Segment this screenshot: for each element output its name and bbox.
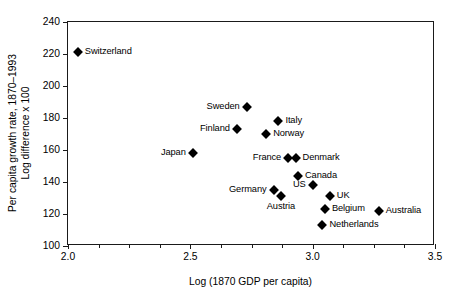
x-axis-tick	[313, 244, 314, 249]
data-point-label: Austria	[267, 202, 295, 211]
data-point-label: Italy	[285, 117, 302, 126]
plot-frame: 1001201401601802002202402.02.53.03.5 Swi…	[67, 21, 434, 245]
data-point-label: Netherlands	[329, 221, 378, 230]
x-axis-minor-tick	[282, 244, 283, 248]
data-point-marker	[242, 102, 252, 112]
data-point-label: UK	[337, 192, 350, 201]
x-axis-minor-tick	[129, 244, 130, 248]
y-axis-title: Per capita growth rate, 1870–1993 Log di…	[8, 21, 32, 245]
data-point-marker	[261, 129, 271, 139]
data-point-label: Switzerland	[85, 48, 132, 57]
data-point-marker	[318, 220, 328, 230]
x-axis-minor-tick	[404, 244, 405, 248]
data-point-marker	[273, 116, 283, 126]
data-point-marker	[276, 191, 286, 201]
y-axis-tick-label: 200	[43, 81, 60, 91]
data-point-label: Finland	[200, 125, 230, 134]
data-point-label: Norway	[273, 129, 304, 138]
x-axis-tick-label: 2.5	[183, 252, 197, 262]
y-axis-tick-label: 160	[43, 145, 60, 155]
data-point-marker	[325, 191, 335, 201]
data-point-label: Sweden	[207, 102, 240, 111]
x-axis-title: Log (1870 GDP per capita)	[67, 276, 434, 287]
y-axis-tick-label: 240	[43, 17, 60, 27]
x-axis-tick	[435, 244, 436, 249]
data-point-marker	[291, 153, 301, 163]
data-point-label: Germany	[229, 185, 267, 194]
data-points-layer: SwitzerlandJapanSwedenFinlandItalyNorway…	[68, 22, 433, 244]
data-point-label: US	[293, 181, 306, 190]
y-axis-tick-label: 220	[43, 49, 60, 59]
x-axis-minor-tick	[252, 244, 253, 248]
data-point-marker	[73, 47, 83, 57]
data-point-marker	[320, 204, 330, 214]
data-point-marker	[232, 124, 242, 134]
y-axis-tick-label: 120	[43, 209, 60, 219]
x-axis-minor-tick	[343, 244, 344, 248]
data-point-label: Denmark	[303, 153, 340, 162]
data-point-label: France	[253, 153, 281, 162]
y-axis-tick-label: 140	[43, 177, 60, 187]
y-axis-tick-label: 100	[43, 241, 60, 251]
x-axis-tick-label: 3.5	[428, 252, 442, 262]
y-axis-title-line2: Log difference x 100	[20, 86, 31, 179]
x-axis-tick	[68, 244, 69, 249]
data-point-label: Belgium	[332, 205, 365, 214]
data-point-marker	[374, 206, 384, 216]
x-axis-tick-label: 2.0	[61, 252, 75, 262]
data-point-label: Canada	[305, 171, 337, 180]
scatter-chart-figure: Per capita growth rate, 1870–1993 Log di…	[0, 0, 455, 299]
x-axis-minor-tick	[221, 244, 222, 248]
x-axis-tick-label: 3.0	[305, 252, 319, 262]
data-point-marker	[188, 148, 198, 158]
x-axis-minor-tick	[99, 244, 100, 248]
x-axis-minor-tick	[160, 244, 161, 248]
data-point-label: Australia	[386, 206, 421, 215]
data-point-marker	[308, 180, 318, 190]
data-point-label: Japan	[161, 149, 186, 158]
y-axis-tick-label: 180	[43, 113, 60, 123]
x-axis-tick	[190, 244, 191, 249]
x-axis-minor-tick	[374, 244, 375, 248]
y-axis-title-line1: Per capita growth rate, 1870–1993	[7, 54, 18, 212]
